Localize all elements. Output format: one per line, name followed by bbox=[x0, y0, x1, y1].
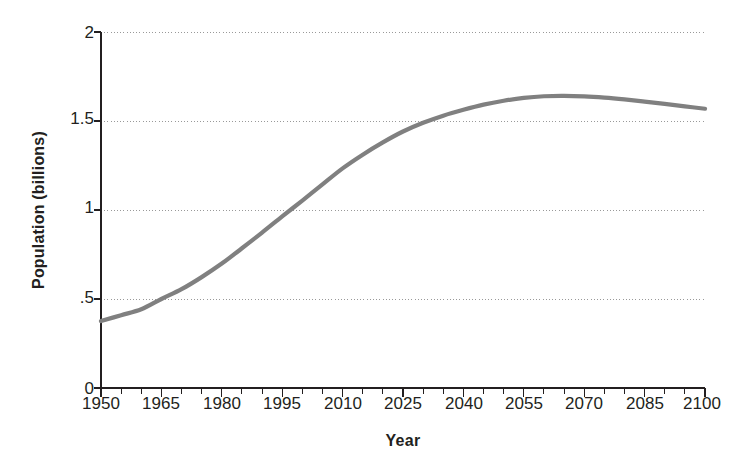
population-projection-chart: Population (billions) Year 2 1.5 1 .5 0 … bbox=[0, 0, 732, 472]
plot-area bbox=[0, 0, 732, 472]
x-axis-major-ticks bbox=[101, 388, 705, 397]
y-axis-ticks bbox=[94, 32, 101, 388]
population-curve bbox=[101, 96, 705, 321]
gridlines bbox=[101, 32, 705, 299]
